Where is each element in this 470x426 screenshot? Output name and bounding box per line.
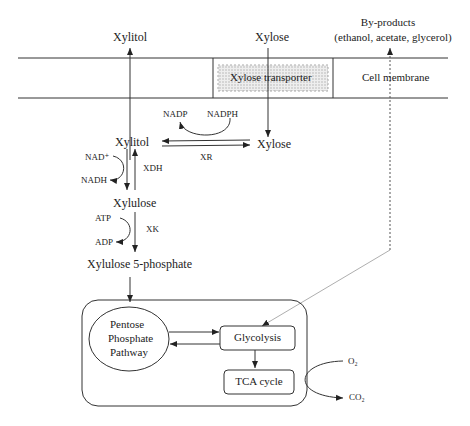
o2-label: O₂	[348, 356, 358, 366]
glycolysis-to-byproducts-line	[262, 250, 390, 326]
nad-to-nadh-curve	[110, 156, 124, 180]
ppp-label-3: Pathway	[110, 346, 148, 358]
nadh-label: NADH	[81, 175, 107, 185]
xylose-in-label: Xylose	[255, 30, 289, 45]
glycolysis-label: Glycolysis	[220, 331, 295, 343]
pathway-diagram	[0, 0, 470, 426]
xr-label: XR	[200, 152, 213, 162]
xylulose5p-label: Xylulose 5-phosphate	[87, 257, 192, 272]
ppp-label-1: Pentose	[110, 318, 144, 330]
xylulose-label: Xylulose	[113, 196, 156, 211]
nadph-to-nadp-curve	[180, 118, 230, 135]
nadph-label: NADPH	[207, 109, 238, 119]
xylose-cytosol-label: Xylose	[257, 137, 291, 152]
nad-label: NAD⁺	[85, 152, 109, 162]
ppp-label-2: Phosphate	[108, 332, 153, 344]
xk-label: XK	[146, 224, 159, 234]
xdh-label: XDH	[143, 163, 163, 173]
atp-to-adp-curve	[116, 218, 130, 242]
adp-label: ADP	[95, 237, 113, 247]
byproducts-list: (ethanol, acetate, glycerol)	[318, 31, 468, 43]
xylitol-out-label: Xylitol	[113, 30, 147, 45]
byproducts-title: By-products	[338, 16, 438, 28]
nadp-label: NADP	[163, 109, 188, 119]
tca-label: TCA cycle	[224, 375, 294, 387]
co2-label: CO₂	[349, 392, 365, 402]
o2-to-co2-curve	[305, 361, 343, 398]
xr-reverse-arrow	[162, 140, 250, 141]
xr-forward-arrow	[162, 145, 250, 146]
atp-label: ATP	[95, 213, 111, 223]
xylitol-cytosol-label: Xylitol	[115, 135, 149, 150]
xylose-transporter-label: Xylose transporter	[230, 71, 312, 83]
cell-membrane-label: Cell membrane	[362, 71, 430, 83]
